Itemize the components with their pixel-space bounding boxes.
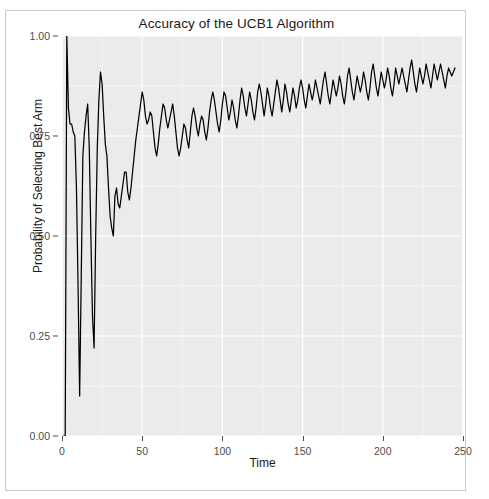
figure-container: Accuracy of the UCB1 Algorithm 0.000.250… xyxy=(5,10,466,491)
y-tick-mark xyxy=(53,136,58,137)
x-axis-title: Time xyxy=(62,456,463,470)
x-tick-mark xyxy=(383,436,384,441)
plot-panel xyxy=(62,36,463,436)
x-tick-mark xyxy=(62,436,63,441)
y-tick-mark xyxy=(53,336,58,337)
x-tick-mark xyxy=(142,436,143,441)
y-tick-mark xyxy=(53,436,58,437)
x-tick-mark xyxy=(463,436,464,441)
x-tick-mark xyxy=(303,436,304,441)
y-tick-mark xyxy=(53,236,58,237)
x-tick-mark xyxy=(222,436,223,441)
plot-area xyxy=(62,36,463,436)
y-tick-label: 0.00 xyxy=(30,430,50,442)
y-axis-title: Probability of Selecting Best Arm xyxy=(31,6,45,366)
y-tick-mark xyxy=(53,36,58,37)
chart-title: Accuracy of the UCB1 Algorithm xyxy=(6,16,467,31)
